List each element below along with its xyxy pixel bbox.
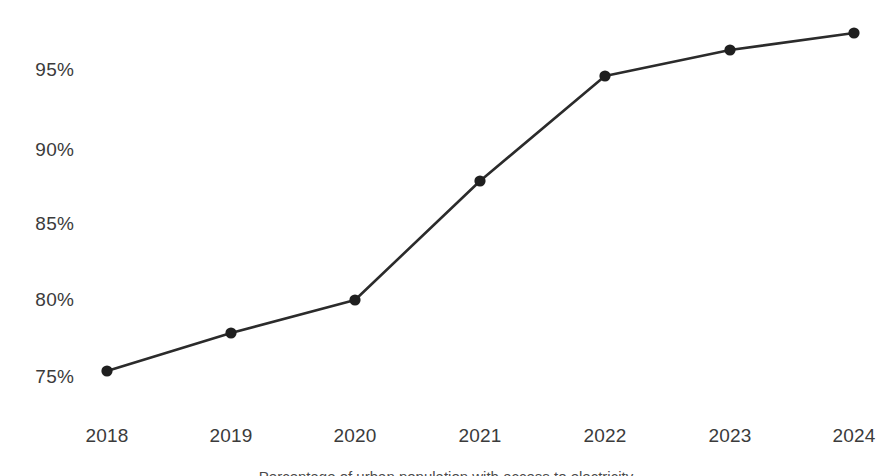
- y-tick-label-75: 75%: [0, 366, 74, 388]
- chart-caption: Percentage of urban population with acce…: [0, 468, 892, 476]
- x-tick-label-2022: 2022: [583, 425, 626, 447]
- x-tick-label-2018: 2018: [85, 425, 128, 447]
- data-point-marker[interactable]: [724, 44, 735, 55]
- x-tick-label-2021: 2021: [458, 425, 501, 447]
- data-point-marker[interactable]: [225, 327, 236, 338]
- data-point-marker[interactable]: [848, 27, 859, 38]
- x-tick-label-2020: 2020: [333, 425, 376, 447]
- chart-plot-area: [0, 0, 892, 476]
- x-tick-label-2019: 2019: [209, 425, 252, 447]
- x-tick-label-2024: 2024: [832, 425, 875, 447]
- y-tick-label-90: 90%: [0, 139, 74, 161]
- series-line: [107, 33, 854, 371]
- data-point-marker[interactable]: [101, 365, 112, 376]
- data-point-marker[interactable]: [474, 175, 485, 186]
- data-point-marker[interactable]: [599, 70, 610, 81]
- y-tick-label-85: 85%: [0, 213, 74, 235]
- y-tick-label-95: 95%: [0, 59, 74, 81]
- data-point-marker[interactable]: [349, 294, 360, 305]
- x-tick-label-2023: 2023: [708, 425, 751, 447]
- line-chart: 95% 90% 85% 80% 75% 2018 2019 2020 2021 …: [0, 0, 892, 476]
- y-tick-label-80: 80%: [0, 289, 74, 311]
